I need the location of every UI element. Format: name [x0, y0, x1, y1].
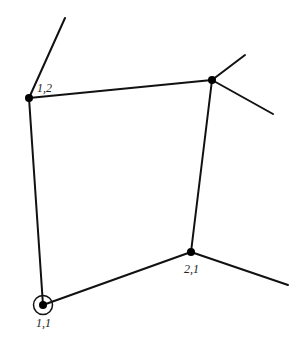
node-1-2 — [25, 94, 33, 102]
edge-1-2-to-1-1 — [29, 98, 43, 305]
edge-1-1-to-2-1 — [43, 252, 191, 305]
label-1-1: 1,1 — [36, 316, 51, 330]
edge-top-right-to-2-1 — [191, 80, 212, 252]
node-2-1 — [187, 248, 195, 256]
node-1-1 — [39, 301, 47, 309]
dangling-edge-top-right-up — [212, 55, 245, 80]
dangling-edge-2-1-right — [191, 252, 288, 285]
label-1-2: 1,2 — [37, 81, 52, 95]
edge-1-2-to-top-right — [29, 80, 212, 98]
node-top-right — [208, 76, 216, 84]
graph-diagram: 1,2 2,1 1,1 — [0, 0, 301, 348]
dangling-edge-top-right-right — [212, 80, 273, 114]
label-2-1: 2,1 — [184, 262, 199, 276]
